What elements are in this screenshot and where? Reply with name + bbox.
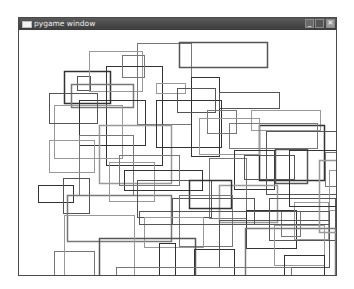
drawing-canvas[interactable] bbox=[19, 30, 336, 275]
drawn-rectangle bbox=[195, 250, 235, 276]
drawn-rectangle bbox=[55, 106, 123, 159]
window-title: pygame window bbox=[34, 18, 95, 30]
title-bar[interactable]: pygame window _ ✕ bbox=[19, 18, 336, 30]
drawn-rectangle bbox=[270, 199, 336, 241]
drawn-rectangle bbox=[117, 268, 292, 276]
drawn-rectangle bbox=[245, 156, 295, 180]
drawn-rectangle bbox=[68, 196, 172, 242]
drawn-rectangle bbox=[210, 159, 247, 219]
minimize-icon: _ bbox=[306, 18, 313, 29]
maximize-button[interactable] bbox=[315, 19, 324, 28]
drawn-rectangle bbox=[230, 124, 318, 149]
drawn-rectangle bbox=[326, 153, 337, 187]
drawn-rectangle bbox=[252, 111, 321, 131]
window-app-icon bbox=[22, 21, 32, 28]
drawn-rectangle bbox=[55, 252, 95, 276]
drawn-rectangle bbox=[100, 239, 196, 276]
drawn-rectangle bbox=[78, 77, 91, 91]
drawn-rectangle bbox=[190, 181, 232, 209]
drawn-rectangle bbox=[235, 151, 275, 190]
drawn-rectangle bbox=[160, 244, 176, 276]
close-button[interactable]: ✕ bbox=[326, 19, 335, 28]
drawn-rectangle bbox=[50, 94, 98, 124]
pygame-window: pygame window _ ✕ bbox=[18, 17, 337, 276]
minimize-button[interactable]: _ bbox=[305, 19, 314, 28]
drawn-rectangle bbox=[180, 43, 268, 68]
drawn-rectangle bbox=[220, 93, 280, 109]
drawn-rectangle bbox=[276, 150, 308, 184]
drawn-rectangle bbox=[220, 186, 278, 223]
drawn-rectangle bbox=[260, 126, 325, 181]
drawn-rectangle bbox=[107, 67, 163, 166]
rectangles-layer bbox=[19, 30, 336, 275]
drawn-rectangle bbox=[100, 126, 172, 184]
drawn-rectangle bbox=[246, 229, 336, 276]
drawn-rectangle bbox=[320, 161, 337, 233]
close-icon: ✕ bbox=[327, 18, 334, 29]
